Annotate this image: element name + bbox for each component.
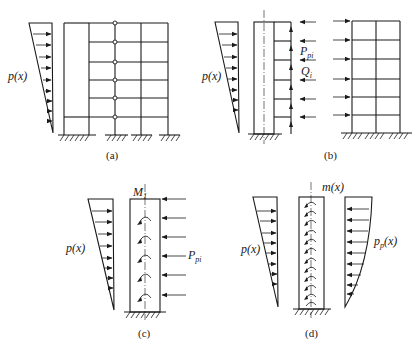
caption-d: (d) (305, 327, 318, 340)
distributed-moments-d (304, 202, 316, 306)
panel-b: p(x) Ppi Qi (201, 10, 412, 162)
link-forces-c (162, 199, 186, 295)
caption-a: (a) (106, 149, 119, 162)
frame-b (333, 21, 400, 133)
interaction-force-d (345, 197, 372, 307)
triangular-load-a (29, 23, 53, 133)
panel-a: p(x) (7, 21, 180, 162)
ground-hatch-a (58, 135, 180, 141)
load-label-a: p(x) (7, 69, 27, 83)
load-label-d: p(x) (240, 242, 260, 256)
ground-hatch-d (293, 309, 331, 315)
moment-label-d: m(x) (322, 180, 344, 194)
concentrated-moments-c (137, 217, 151, 302)
triangular-load-c (88, 199, 114, 310)
shear-wall-b (254, 10, 274, 144)
link-force-label-c: Ppi (187, 248, 202, 264)
caption-c: (c) (138, 327, 151, 340)
structural-diagram: p(x) (0, 0, 417, 347)
ground-hatch-b-frame (341, 133, 412, 139)
load-label-b: p(x) (201, 69, 221, 83)
panel-c: p(x) M1 Ppi (c) (65, 184, 202, 340)
load-label-c: p(x) (65, 241, 85, 255)
interaction-label-d: pp(x) (373, 234, 397, 250)
shear-wall-c (130, 184, 160, 320)
shear-wall-a (64, 23, 89, 135)
shear-label-b: Qi (301, 64, 312, 80)
ground-hatch-b-wall (248, 134, 282, 140)
link-column-b (274, 22, 293, 134)
frame-a (89, 23, 168, 135)
link-force-label-b: Ppi (299, 44, 314, 60)
caption-b: (b) (324, 149, 337, 162)
panel-d: p(x) m(x) pp(x) (d) (240, 180, 397, 340)
